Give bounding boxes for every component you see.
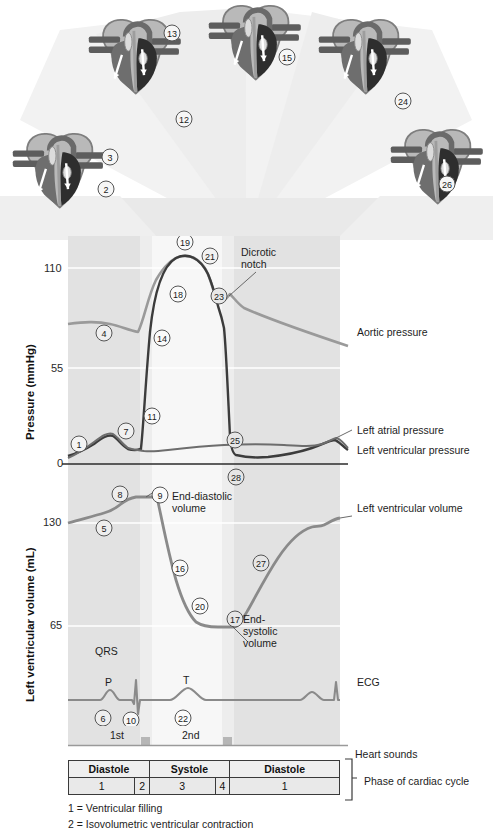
- callout-label: 3: [107, 153, 112, 163]
- svg-text:8: 8: [117, 490, 122, 500]
- callout-24: 24: [395, 93, 411, 109]
- legend-item-2: 2 = Isovolumetric ventricular contractio…: [68, 818, 253, 830]
- phase-cell-5: 1: [230, 778, 340, 795]
- phase-of-cardiac-cycle-table: Diastole Systole Diastole 1 2 3 4 1: [68, 760, 340, 795]
- svg-text:5: 5: [101, 524, 106, 534]
- callout-15: 15: [279, 49, 295, 65]
- table-row-phase-numbers: 1 2 3 4 1: [69, 778, 340, 795]
- svg-text:6: 6: [100, 714, 105, 724]
- svg-text:17: 17: [230, 615, 240, 625]
- phase-cell-1: 1: [69, 778, 135, 795]
- callout-26: 26: [439, 176, 455, 192]
- svg-text:14: 14: [157, 334, 167, 344]
- callout-2: 2: [98, 181, 114, 197]
- callout-9: 9: [152, 487, 168, 503]
- phase-cell-3: 3: [149, 778, 215, 795]
- svg-text:1: 1: [76, 440, 81, 450]
- aortic-pressure-label: Aortic pressure: [357, 326, 428, 338]
- phase-header-diastole-1: Diastole: [69, 761, 150, 778]
- volume-tick-130: 130: [43, 516, 61, 528]
- callout-3: 3: [102, 149, 118, 165]
- callout-4: 4: [96, 325, 112, 341]
- phase-cell-4: 4: [215, 778, 229, 795]
- end-diastolic-volume-label: End-diastolic volume: [172, 490, 232, 514]
- pressure-tick-0: 0: [57, 457, 63, 469]
- callout-23: 23: [211, 288, 227, 304]
- callout-8: 8: [112, 486, 128, 502]
- left-ventricular-pressure-label: Left ventricular pressure: [357, 444, 470, 456]
- svg-text:7: 7: [123, 427, 128, 437]
- phase-bands: [68, 236, 340, 732]
- svg-text:22: 22: [178, 714, 188, 724]
- pressure-tick-55: 55: [51, 362, 63, 374]
- callout-25: 25: [227, 432, 243, 448]
- table-row-phase-names: Diastole Systole Diastole: [69, 761, 340, 778]
- ecg-t-label: T: [183, 674, 189, 686]
- svg-text:20: 20: [195, 602, 205, 612]
- callout-19: 19: [177, 236, 193, 250]
- callout-label: 2: [103, 185, 108, 195]
- svg-text:19: 19: [180, 238, 190, 248]
- callout-21: 21: [202, 248, 218, 264]
- svg-text:18: 18: [173, 290, 183, 300]
- heart-sound-second-label: 2nd: [182, 729, 200, 741]
- svg-text:4: 4: [101, 329, 106, 339]
- callout-28: 28: [228, 469, 244, 485]
- heart-illustration-panel: 3 2 13 12 15 24: [0, 0, 493, 240]
- phase-bracket: [342, 758, 362, 802]
- callout-12: 12: [176, 111, 192, 127]
- callout-16: 16: [172, 560, 188, 576]
- callout-label: 26: [442, 180, 452, 190]
- callout-7: 7: [118, 423, 134, 439]
- callout-14: 14: [154, 330, 170, 346]
- callout-22: 22: [175, 710, 191, 726]
- heart-sounds-panel: [0, 726, 493, 754]
- svg-text:23: 23: [214, 292, 224, 302]
- end-systolic-volume-label: End- systolic volume: [243, 613, 277, 649]
- svg-text:9: 9: [157, 491, 162, 501]
- phase-of-cardiac-cycle-label: Phase of cardiac cycle: [364, 775, 469, 787]
- svg-text:25: 25: [230, 436, 240, 446]
- callout-label: 12: [179, 115, 189, 125]
- cardiac-cycle-figure: 3 2 13 12 15 24: [0, 0, 493, 835]
- callout-label: 13: [167, 29, 177, 39]
- callout-11: 11: [144, 408, 160, 424]
- callout-6: 6: [95, 710, 111, 726]
- callout-27: 27: [253, 555, 269, 571]
- left-ventricular-volume-label: Left ventricular volume: [357, 502, 463, 514]
- volume-axis-title: Left ventricular volume (mL): [24, 547, 36, 702]
- phase-header-systole: Systole: [149, 761, 229, 778]
- ecg-qrs-label: QRS: [95, 645, 118, 657]
- pressure-tick-110: 110: [44, 262, 62, 274]
- ecg-label: ECG: [357, 676, 380, 688]
- phase-header-diastole-2: Diastole: [230, 761, 340, 778]
- svg-text:16: 16: [175, 564, 185, 574]
- callout-label: 24: [398, 97, 408, 107]
- legend-item-1: 1 = Ventricular filling: [68, 802, 162, 814]
- svg-text:10: 10: [126, 716, 136, 726]
- callout-label: 15: [282, 53, 292, 63]
- left-atrial-pressure-label: Left atrial pressure: [357, 424, 444, 436]
- wiggers-chart: 1 4 7 11 14 18 19: [0, 236, 493, 756]
- callout-17: 17: [227, 611, 243, 627]
- heart-sound-first-label: 1st: [110, 729, 124, 741]
- callout-18: 18: [170, 286, 186, 302]
- volume-tick-65: 65: [50, 619, 62, 631]
- phase-cell-2: 2: [135, 778, 149, 795]
- svg-text:28: 28: [231, 473, 241, 483]
- callout-5: 5: [96, 520, 112, 536]
- callout-13: 13: [164, 25, 180, 41]
- svg-text:11: 11: [147, 412, 156, 422]
- svg-text:21: 21: [205, 252, 215, 262]
- pressure-axis-title: Pressure (mmHg): [24, 344, 36, 440]
- callout-20: 20: [192, 598, 208, 614]
- ecg-p-label: P: [105, 676, 112, 688]
- callout-1: 1: [71, 436, 87, 452]
- dicrotic-notch-label: Dicrotic notch: [241, 246, 276, 270]
- svg-text:27: 27: [256, 559, 266, 569]
- heart-sounds-label: Heart sounds: [355, 748, 417, 760]
